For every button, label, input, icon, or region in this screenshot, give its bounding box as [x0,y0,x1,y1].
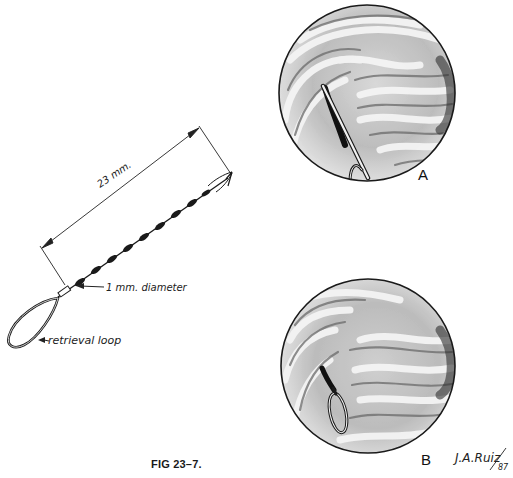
loop-annotation: retrieval loop [38,334,121,347]
panel-a-endoscopic-view: A [279,5,455,183]
dimension-line [40,126,231,285]
svg-text:23 mm.: 23 mm. [95,159,133,190]
svg-text:retrieval loop: retrieval loop [48,334,121,347]
panel-label-b: B [421,451,431,468]
svg-text:1 mm. diameter: 1 mm. diameter [106,282,188,293]
panel-b-endoscopic-view: B [281,279,455,468]
diameter-annotation: 1 mm. diameter [76,282,188,293]
figure-caption: FIG 23–7. [151,458,202,470]
instrument-shaft [58,172,232,297]
figure-illustration: 23 mm. [0,0,513,478]
panel-label-a: A [418,166,428,183]
artist-signature: J.A.Ruiz 87 [453,448,509,472]
length-label: 23 mm. [95,159,133,190]
svg-text:87: 87 [498,463,509,472]
svg-text:J.A.Ruiz: J.A.Ruiz [453,451,501,465]
instrument-drawing: 23 mm. [8,126,232,347]
